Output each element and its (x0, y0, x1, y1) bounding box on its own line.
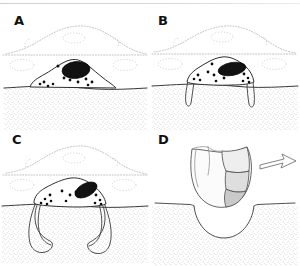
figure-root: A (0, 0, 300, 266)
cell-b (187, 57, 254, 85)
panel-c-label: C (12, 133, 22, 146)
panel-c: C (0, 133, 150, 266)
panel-d: D (150, 133, 300, 266)
panel-b: B (150, 8, 300, 133)
substrate-a (4, 86, 147, 130)
panel-b-drawing (150, 8, 300, 133)
detached-fragment-d (191, 147, 252, 208)
panel-d-label: D (158, 133, 169, 146)
panel-c-drawing (0, 133, 150, 266)
panel-a-label: A (14, 14, 24, 27)
panel-d-drawing (150, 133, 300, 266)
removal-arrow-d (260, 154, 296, 169)
substrate-b (152, 84, 298, 130)
substrate-d (152, 203, 298, 265)
panel-a: A (0, 8, 150, 133)
top-divider-rule (0, 3, 300, 4)
cell-a (30, 59, 116, 88)
substrate-c (2, 204, 148, 263)
panel-b-label: B (158, 14, 168, 27)
cell-c (34, 178, 106, 207)
